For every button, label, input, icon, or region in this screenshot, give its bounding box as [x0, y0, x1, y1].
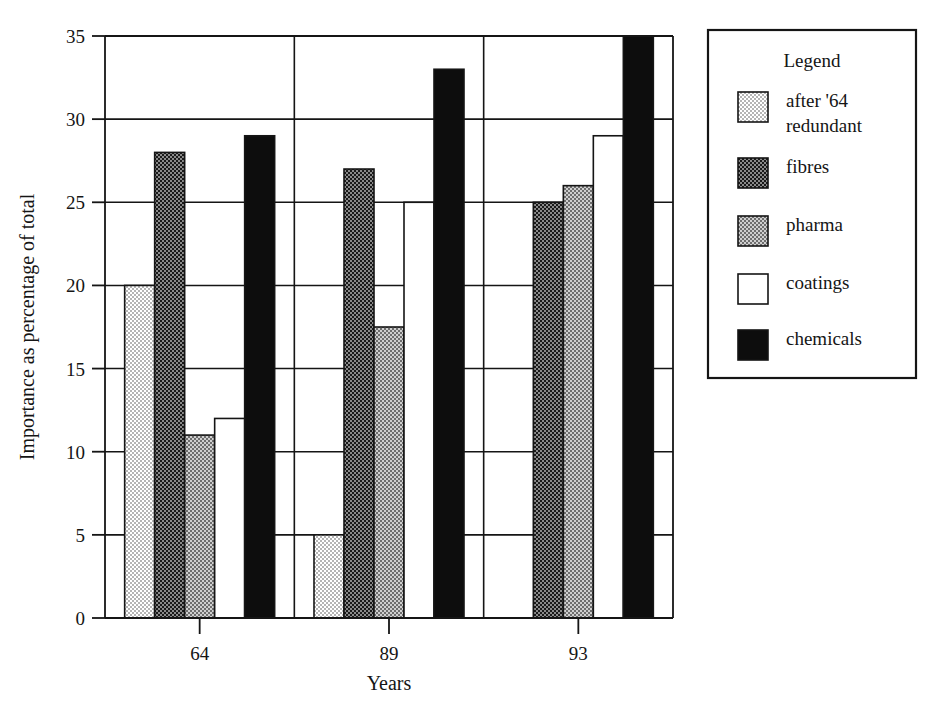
y-tick-label: 35: [66, 26, 85, 47]
bar-93-fibres: [533, 202, 563, 618]
legend-label-coatings: coatings: [786, 272, 849, 293]
bar-64-chemicals: [245, 136, 275, 618]
y-tick-label: 0: [76, 608, 86, 629]
bar-64-coatings: [215, 418, 245, 618]
y-tick-label: 20: [66, 275, 85, 296]
bar-89-chemicals: [434, 69, 464, 618]
bar-chart-figure: 05101520253035 648993 Importance as perc…: [0, 0, 926, 712]
x-tick-label: 93: [569, 643, 588, 664]
bar-64-fibres: [155, 152, 185, 618]
legend-label-pharma: pharma: [786, 214, 844, 235]
legend-title: Legend: [784, 50, 841, 71]
x-axis-title: Years: [367, 672, 412, 694]
legend-label-after-64-redundant: after '64: [786, 90, 848, 111]
legend-swatch-chemicals[interactable]: [738, 330, 768, 360]
x-tick-label: 64: [190, 643, 210, 664]
legend-box: [708, 30, 916, 378]
bar-93-pharma: [563, 186, 593, 618]
bar-93-chemicals: [623, 36, 653, 618]
bar-89-coatings: [404, 202, 434, 618]
bar-89-after-64-redundant: [314, 535, 344, 618]
y-tick-label: 10: [66, 442, 85, 463]
bar-89-fibres: [344, 169, 374, 618]
legend[interactable]: Legendafter '64redundantfibrespharmacoat…: [708, 30, 916, 378]
bar-64-pharma: [185, 435, 215, 618]
y-tick-label: 15: [66, 359, 85, 380]
legend-swatch-after-64-redundant[interactable]: [738, 92, 768, 122]
bar-89-pharma: [374, 327, 404, 618]
chart-svg: 05101520253035 648993 Importance as perc…: [0, 0, 926, 712]
legend-label-fibres: fibres: [786, 156, 829, 177]
y-axis-title: Importance as percentage of total: [16, 193, 39, 460]
legend-label-after-64-redundant-line2: redundant: [786, 115, 863, 136]
legend-label-chemicals: chemicals: [786, 328, 862, 349]
legend-swatch-fibres[interactable]: [738, 158, 768, 188]
bar-64-after-64-redundant: [125, 285, 155, 618]
bar-93-coatings: [593, 136, 623, 618]
legend-swatch-pharma[interactable]: [738, 216, 768, 246]
x-tick-label: 89: [380, 643, 399, 664]
y-tick-label: 30: [66, 109, 85, 130]
y-tick-label: 5: [76, 525, 86, 546]
legend-swatch-coatings[interactable]: [738, 274, 768, 304]
y-tick-label: 25: [66, 192, 85, 213]
